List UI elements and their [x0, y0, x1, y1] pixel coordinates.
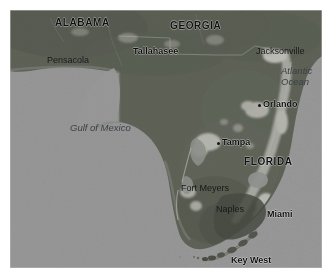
satellite-map-plate[interactable]: [10, 10, 322, 268]
map-figure: ALABAMA GEORGIA FLORIDA Gulf of Mexico A…: [0, 0, 335, 280]
satellite-map-image: [10, 10, 322, 268]
